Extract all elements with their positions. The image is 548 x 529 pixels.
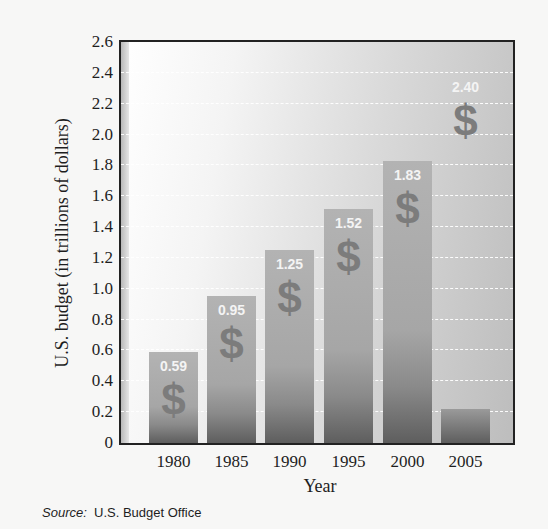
y-tick-label: 0.6 xyxy=(73,341,113,358)
bar-1980: 0.59$ xyxy=(149,352,198,443)
bar-chart-figure: U.S. budget (in trillions of dollars) 0.… xyxy=(0,0,548,529)
dollar-sign-icon: $ xyxy=(207,322,256,366)
y-tick-label: 2.6 xyxy=(73,33,113,50)
source-note: Source: U.S. Budget Office xyxy=(42,505,201,520)
x-tick-label: 2000 xyxy=(378,452,438,472)
y-tick-label: 1.2 xyxy=(73,249,113,266)
bar-value-label: 1.25 xyxy=(265,256,314,272)
y-tick-label: 1.8 xyxy=(73,156,113,173)
bar-value-label: 0.59 xyxy=(149,358,198,374)
bar-value-label: 0.95 xyxy=(207,302,256,318)
bar-2000: 1.83$ xyxy=(383,161,432,443)
y-tick-label: 2.4 xyxy=(73,64,113,81)
y-tick-label: 1.0 xyxy=(73,280,113,297)
y-tick-label: 0.8 xyxy=(73,311,113,328)
x-tick-label: 1995 xyxy=(319,452,379,472)
y-tick-label: 0.2 xyxy=(73,403,113,420)
bar-1985: 0.95$ xyxy=(207,296,256,443)
source-label: Source: xyxy=(42,505,87,520)
y-tick-label: 2.0 xyxy=(73,126,113,143)
bar-value-label: 2.40 xyxy=(441,79,490,95)
y-tick-label: 2.2 xyxy=(73,95,113,112)
x-axis-label: Year xyxy=(290,476,350,497)
dollar-sign-icon: $ xyxy=(324,235,373,279)
dollar-sign-icon: $ xyxy=(383,187,432,231)
dollar-sign-icon: $ xyxy=(441,99,490,143)
bar-1990: 1.25$ xyxy=(265,250,314,443)
y-axis-label: U.S. budget (in trillions of dollars) xyxy=(52,118,73,367)
bar-2005: 2.40$ xyxy=(441,73,490,443)
y-tick-label: 0 xyxy=(73,434,113,451)
x-tick-label: 1980 xyxy=(144,452,204,472)
y-tick-label: 1.6 xyxy=(73,187,113,204)
y-tick-label: 0.4 xyxy=(73,372,113,389)
source-text: U.S. Budget Office xyxy=(94,505,201,520)
plot-area: 0.59$0.95$1.25$1.52$1.83$2.40$ xyxy=(119,40,515,445)
x-tick-label: 1985 xyxy=(202,452,262,472)
x-tick-label: 1990 xyxy=(260,452,320,472)
bar-value-label: 1.83 xyxy=(383,167,432,183)
dollar-sign-icon: $ xyxy=(149,378,198,422)
dollar-sign-icon: $ xyxy=(265,276,314,320)
bar-1995: 1.52$ xyxy=(324,209,373,443)
x-tick-label: 2005 xyxy=(436,452,496,472)
y-tick-label: 1.4 xyxy=(73,218,113,235)
bar-value-label: 1.52 xyxy=(324,215,373,231)
